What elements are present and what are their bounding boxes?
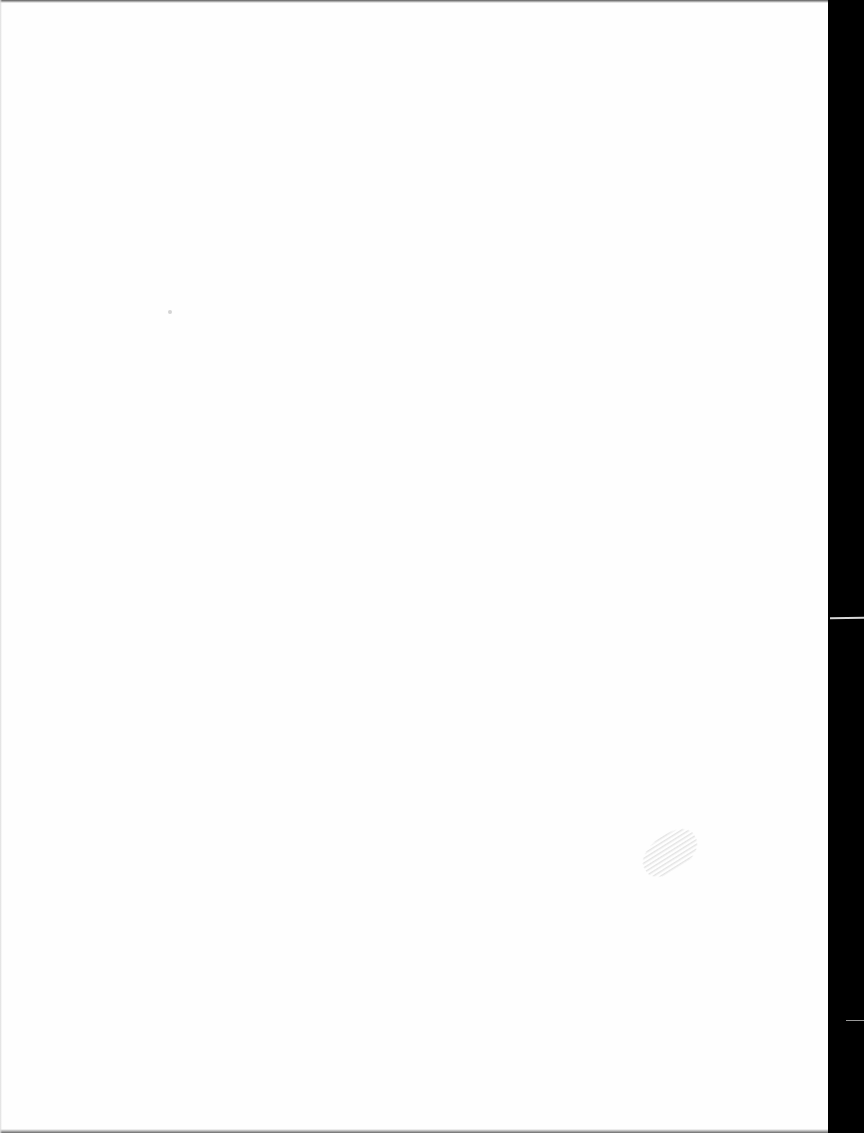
page-top-edge-shadow [0, 0, 828, 3]
page-bottom-edge-shadow [0, 1129, 828, 1133]
dust-speck [168, 310, 172, 314]
blank-document-page [0, 0, 828, 1133]
scanner-bed-border [828, 0, 864, 1133]
smudge-mark [635, 822, 705, 884]
scanner-streak-lower [846, 1020, 864, 1021]
page-left-edge-shadow [0, 0, 2, 1133]
